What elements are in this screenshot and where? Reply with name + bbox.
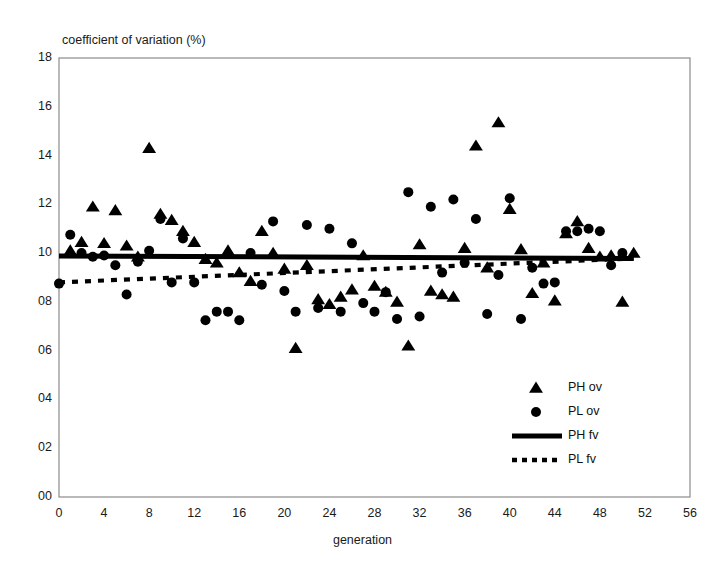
data-point-triangle [255, 225, 269, 236]
scatter-chart: coefficient of variation (%) generation … [0, 0, 725, 568]
series-ph-ov [63, 116, 640, 353]
data-point-triangle [582, 242, 596, 253]
data-point-triangle [368, 280, 382, 291]
data-point-triangle [469, 139, 483, 150]
data-point-triangle [187, 236, 201, 247]
data-point-circle [493, 270, 503, 280]
legend-label-ph-ov: PH ov [568, 380, 602, 394]
data-point-circle [584, 224, 594, 234]
data-point-triangle [86, 200, 100, 211]
data-point-circle [178, 233, 188, 243]
data-point-circle [381, 287, 391, 297]
data-point-triangle [514, 243, 528, 254]
data-point-triangle [424, 285, 438, 296]
data-point-triangle [165, 214, 179, 225]
data-point-circle [606, 260, 616, 270]
data-point-triangle [334, 291, 348, 302]
data-point-triangle [345, 283, 359, 294]
data-point-circle [155, 214, 165, 224]
data-point-circle [358, 298, 368, 308]
plot-area [0, 0, 725, 568]
data-point-triangle [97, 237, 111, 248]
data-point-circle [347, 238, 357, 248]
data-point-triangle [446, 291, 460, 302]
data-point-triangle [289, 342, 303, 353]
data-point-triangle [75, 236, 89, 247]
data-point-circle [200, 315, 210, 325]
data-point-circle [505, 193, 515, 203]
data-point-circle [561, 226, 571, 236]
data-point-circle [437, 268, 447, 278]
data-point-circle [336, 307, 346, 317]
legend-label-ph-fv: PH fv [568, 428, 599, 442]
data-point-circle [110, 260, 120, 270]
fit-line-pl-fv [59, 258, 634, 282]
data-point-circle [550, 277, 560, 287]
data-point-triangle [401, 339, 415, 350]
data-point-circle [415, 312, 425, 322]
data-point-triangle [390, 296, 404, 307]
data-point-circle [234, 315, 244, 325]
data-point-circle [122, 290, 132, 300]
data-point-triangle [615, 296, 629, 307]
legend-label-pl-fv: PL fv [568, 452, 596, 466]
data-point-circle [539, 279, 549, 289]
data-point-circle [291, 307, 301, 317]
data-point-circle [313, 303, 323, 313]
data-point-triangle [503, 203, 517, 214]
data-point-circle [268, 216, 278, 226]
data-point-circle [572, 226, 582, 236]
data-point-triangle [458, 242, 472, 253]
data-point-triangle [221, 244, 235, 255]
data-point-circle [223, 307, 233, 317]
data-point-circle [516, 314, 526, 324]
data-point-circle [302, 220, 312, 230]
data-point-triangle [548, 294, 562, 305]
data-point-triangle [300, 259, 314, 270]
data-point-triangle [492, 116, 506, 127]
data-point-triangle [570, 215, 584, 226]
legend-label-pl-ov: PL ov [568, 404, 600, 418]
data-point-triangle [120, 239, 134, 250]
data-point-circle [370, 307, 380, 317]
data-point-circle [482, 309, 492, 319]
fit-line-ph-fv [59, 256, 634, 258]
data-point-circle [471, 214, 481, 224]
data-point-triangle [413, 238, 427, 249]
data-point-circle [257, 280, 267, 290]
data-point-circle [595, 226, 605, 236]
data-point-circle [448, 194, 458, 204]
data-point-circle [403, 187, 413, 197]
data-point-circle [279, 286, 289, 296]
data-point-circle [426, 202, 436, 212]
data-point-circle [324, 224, 334, 234]
data-point-triangle [108, 204, 122, 215]
data-point-circle [392, 314, 402, 324]
data-point-triangle [142, 142, 156, 153]
data-point-triangle [435, 288, 449, 299]
data-point-circle [65, 230, 75, 240]
data-point-triangle [525, 287, 539, 298]
data-point-triangle [311, 293, 325, 304]
data-point-circle [212, 307, 222, 317]
